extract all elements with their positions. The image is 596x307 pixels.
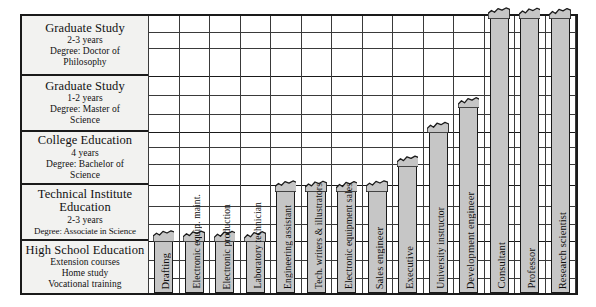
career-bar-professor[interactable]: Professor [520,18,539,293]
column-divider [270,16,271,293]
column-divider [148,16,149,293]
career-bar-engineering-assistant[interactable]: Engineering assistant [276,191,295,293]
bar-torn-top-icon [427,121,449,133]
bar-torn-top-icon [458,96,480,108]
level-duration: 2-3 years [67,35,103,46]
career-bar-electronic-equip-maint[interactable]: Electronic equip. maint. [185,241,204,293]
level-degree-line2: Science [70,115,100,126]
career-bar-label: Development engineer [460,192,477,289]
education-level-graduate-doctorate: Graduate Study 2-3 years Degree: Doctor … [22,16,148,76]
career-bar-tech-writers-illustrators[interactable]: Tech. writers & illustrators [307,191,326,293]
career-bar-label: Laboratory technician [247,202,264,289]
bar-body: University instructor [429,132,448,293]
career-bar-drafting[interactable]: Drafting [154,241,173,293]
career-bar-label: Engineering assistant [277,205,294,289]
level-degree-line1: Degree: Doctor of [50,46,120,57]
bar-body: Electronic production [215,241,234,293]
column-divider [392,16,393,293]
bar-torn-top-icon [488,7,510,19]
bar-torn-top-icon [153,230,175,242]
column-divider [423,16,424,293]
column-divider [362,16,363,293]
column-divider [453,16,454,293]
bar-body: Tech. writers & illustrators [307,191,326,293]
level-sub-extension: Extension courses [50,257,120,268]
bar-torn-top-icon [397,155,419,167]
career-bar-label: Professor [521,248,538,289]
column-divider [240,16,241,293]
level-degree-line1: Degree: Associate in Science [34,226,136,237]
career-bar-label: Sales engineer [369,227,386,289]
level-title: College Education [38,134,132,148]
career-bar-label: Executive [399,246,416,289]
column-divider [179,16,180,293]
level-degree-line1: Degree: Bachelor of [46,159,124,170]
education-level-technical-institute: Technical Institute Education 2-3 years … [22,185,148,241]
bar-torn-top-icon [549,7,571,19]
bar-body: Professor [520,18,539,293]
column-divider [209,16,210,293]
bar-body: Consultant [490,18,509,293]
level-duration: 2-3 years [67,215,103,226]
level-title-line2: Education [59,201,111,215]
level-title: Graduate Study [45,22,125,36]
level-title: Graduate Study [45,80,125,94]
career-bar-label: Electronic equip. maint. [186,194,203,289]
column-divider [514,16,515,293]
career-bar-university-instructor[interactable]: University instructor [429,132,448,293]
bar-torn-top-icon [366,180,388,192]
column-divider [331,16,332,293]
career-bar-development-engineer[interactable]: Development engineer [459,107,478,293]
education-level-high-school: High School Education Extension courses … [22,241,148,293]
bar-body: Drafting [154,241,173,293]
level-title-line1: Technical Institute [38,188,132,202]
career-bars-plot: DraftingElectronic equip. maint.Electron… [148,16,576,293]
bar-body: Electronic equipment sales [337,191,356,293]
bar-torn-top-icon [275,180,297,192]
column-divider [484,16,485,293]
level-degree-line1: Degree: Master of [50,104,120,115]
level-duration: 1-2 years [67,93,103,104]
education-career-ladder-figure: Graduate Study 2-3 years Degree: Doctor … [0,0,596,307]
level-degree-line2: Science [70,170,100,181]
career-bar-consultant[interactable]: Consultant [490,18,509,293]
career-bar-executive[interactable]: Executive [398,166,417,293]
career-bar-label: Research scientist [552,212,569,289]
column-divider [545,16,546,293]
bar-torn-top-icon [519,7,541,19]
career-bar-laboratory-technician[interactable]: Laboratory technician [246,241,265,293]
career-bar-electronic-production[interactable]: Electronic production [215,241,234,293]
career-bar-label: Electronic equipment sales [338,183,355,289]
career-bar-label: University instructor [430,207,447,289]
level-degree-line2: Philosophy [63,57,106,68]
career-bar-research-scientist[interactable]: Research scientist [551,18,570,293]
career-bar-label: Drafting [155,253,172,289]
bar-body: Executive [398,166,417,293]
career-bar-label: Consultant [491,242,508,289]
column-divider [575,16,576,293]
career-bar-label: Electronic production [216,204,233,289]
education-levels-column: Graduate Study 2-3 years Degree: Doctor … [22,16,148,293]
level-duration: 4 years [71,148,99,159]
career-bar-sales-engineer[interactable]: Sales engineer [368,191,387,293]
bar-body: Electronic equip. maint. [185,241,204,293]
bar-body: Research scientist [551,18,570,293]
bar-body: Sales engineer [368,191,387,293]
bar-body: Development engineer [459,107,478,293]
education-level-graduate-masters: Graduate Study 1-2 years Degree: Master … [22,76,148,132]
career-bar-label: Tech. writers & illustrators [308,183,325,289]
career-bar-electronic-equipment-sales[interactable]: Electronic equipment sales [337,191,356,293]
level-sub-home-study: Home study [62,268,109,279]
bar-body: Engineering assistant [276,191,295,293]
bar-body: Laboratory technician [246,241,265,293]
level-title: High School Education [26,244,145,258]
education-level-college: College Education 4 years Degree: Bachel… [22,132,148,185]
level-sub-vocational: Vocational training [48,279,121,290]
column-divider [301,16,302,293]
